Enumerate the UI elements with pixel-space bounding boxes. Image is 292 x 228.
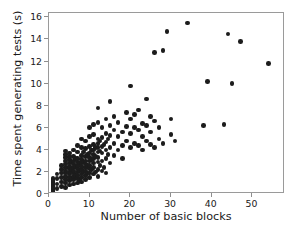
y-tick-label: 10 [6,77,42,88]
data-point [136,128,141,133]
data-point [112,153,117,158]
data-point [91,132,96,137]
data-point [230,81,235,86]
data-point [226,32,231,37]
data-point [136,108,141,113]
y-tick-label: 6 [6,121,42,132]
x-axis-label: Number of basic blocks [48,210,284,223]
data-point [152,50,157,55]
x-tick-mark [89,193,90,197]
data-point [100,125,105,130]
x-tick-label: 30 [155,198,185,209]
data-point [173,139,178,144]
data-point [96,120,101,125]
y-tick-label: 14 [6,33,42,44]
x-tick-label: 0 [33,198,63,209]
data-point [116,120,121,125]
data-point [140,148,145,153]
data-point [108,145,113,150]
data-point [124,110,129,115]
data-point [222,122,227,127]
data-point [96,106,101,111]
x-tick-mark [48,193,49,197]
data-point [96,174,101,179]
data-point [108,161,113,166]
data-point [120,156,125,161]
data-point [108,133,113,138]
y-tick-label: 4 [6,143,42,154]
data-point [104,117,109,122]
y-tick-label: 8 [6,99,42,110]
data-point [100,151,105,156]
data-point [116,148,121,153]
data-point [124,124,129,129]
scatter-plot-figure: Time spent generating tests (s) Number o… [0,0,292,228]
data-point [120,130,125,135]
data-point [100,135,105,140]
data-point [102,165,107,170]
data-point [152,145,157,150]
data-point [104,171,109,176]
data-point [238,39,243,44]
data-point [169,132,174,137]
plot-area [48,12,284,193]
data-point [124,139,129,144]
data-point [128,117,133,122]
data-point [136,143,141,148]
x-tick-mark [129,193,130,197]
y-tick-label: 2 [6,165,42,176]
data-point [83,139,88,144]
x-tick-label: 40 [196,198,226,209]
data-point [108,99,113,104]
data-point [161,48,166,53]
y-tick-label: 0 [6,188,42,199]
data-point [161,141,166,146]
x-tick-label: 10 [74,198,104,209]
data-point [152,119,157,124]
data-point [148,130,153,135]
data-point [112,128,117,133]
data-point [157,137,162,142]
x-tick-mark [211,193,212,197]
data-point [185,21,190,26]
data-point [112,141,117,146]
data-point [128,84,133,89]
x-tick-mark [251,193,252,197]
data-point [169,117,174,122]
data-point [128,145,133,150]
data-point [116,134,121,139]
data-point [120,143,125,148]
x-tick-label: 20 [114,198,144,209]
data-point [51,191,56,193]
data-point [165,29,170,34]
data-point [266,61,271,66]
data-point [106,152,111,157]
data-point [205,79,210,84]
data-point [132,112,137,117]
data-point [108,123,113,128]
data-point [144,123,149,128]
data-point [112,114,117,119]
y-tick-label: 16 [6,11,42,22]
x-tick-label: 50 [236,198,266,209]
x-tick-mark [170,193,171,197]
data-point [104,156,109,161]
data-point [201,123,206,128]
data-point [144,97,149,102]
data-point [157,125,162,130]
data-point [128,131,133,136]
y-tick-label: 12 [6,55,42,66]
